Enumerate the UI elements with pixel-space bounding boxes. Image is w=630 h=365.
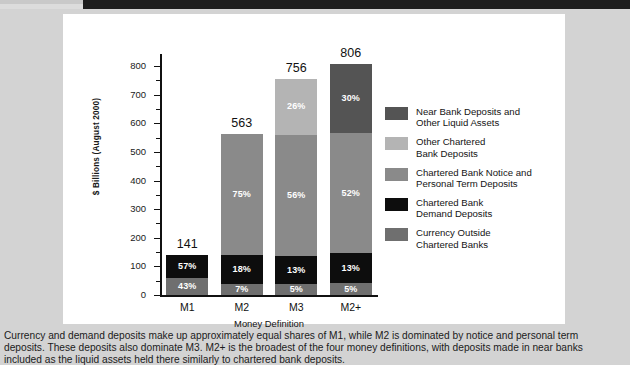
caption-line-2: deposits. These deposits also dominate M… — [4, 342, 628, 354]
bar-segment[interactable]: 52% — [330, 133, 372, 253]
y-axis-tick-label: 500 — [116, 147, 146, 157]
bar-segment[interactable]: 43% — [166, 278, 208, 295]
legend-swatch — [385, 198, 408, 211]
bar-segment-label: 5% — [290, 285, 303, 294]
bar-m2plus[interactable]: 30%52%13%5% — [330, 64, 372, 295]
y-axis-major-tick — [154, 123, 160, 124]
caption-line-1: Currency and demand deposits make up app… — [4, 330, 628, 342]
x-axis-line — [160, 295, 378, 297]
legend-swatch — [385, 107, 408, 120]
bar-segment[interactable]: 7% — [221, 284, 263, 295]
bar-segment-label: 7% — [235, 285, 248, 294]
bar-segment-label: 30% — [342, 94, 360, 103]
chart-panel: $ Billions (August 2000) 010020030040050… — [63, 14, 565, 324]
chart-legend: Near Bank Deposits and Other Liquid Asse… — [385, 106, 565, 258]
bar-m3[interactable]: 26%56%13%5% — [275, 79, 317, 295]
y-axis-major-tick — [154, 266, 160, 267]
x-axis-tick-label: M2+ — [321, 302, 381, 313]
bar-segment-label: 52% — [342, 189, 360, 198]
legend-label: Chartered Bank Demand Deposits — [416, 197, 492, 220]
legend-label: Chartered Bank Notice and Personal Term … — [416, 167, 532, 190]
legend-label: Currency Outside Chartered Banks — [416, 227, 491, 250]
y-axis-minor-tick — [156, 109, 160, 110]
legend-label: Near Bank Deposits and Other Liquid Asse… — [416, 106, 520, 129]
bar-segment-label: 26% — [287, 102, 305, 111]
figure-caption: Currency and demand deposits make up app… — [4, 330, 628, 365]
bar-segment[interactable]: 30% — [330, 64, 372, 133]
y-axis-tick-label: 700 — [116, 90, 146, 100]
legend-item[interactable]: Currency Outside Chartered Banks — [385, 227, 565, 250]
bar-segment-label: 13% — [287, 266, 305, 275]
y-axis-minor-tick — [156, 80, 160, 81]
legend-item[interactable]: Other Chartered Bank Deposits — [385, 136, 565, 159]
y-axis-line — [160, 54, 162, 295]
bar-segment-label: 75% — [233, 190, 251, 199]
bar-segment[interactable]: 75% — [221, 134, 263, 255]
y-axis-minor-tick — [156, 281, 160, 282]
y-axis-tick-label: 800 — [116, 61, 146, 71]
legend-swatch — [385, 168, 408, 181]
y-axis-major-tick — [154, 181, 160, 182]
y-axis-tick-label: 600 — [116, 118, 146, 128]
bar-total-label: 756 — [266, 62, 326, 75]
header-bar — [83, 0, 630, 9]
legend-item[interactable]: Near Bank Deposits and Other Liquid Asse… — [385, 106, 565, 129]
y-axis-major-tick — [154, 209, 160, 210]
bar-total-label: 141 — [157, 238, 217, 251]
bar-segment-label: 56% — [287, 191, 305, 200]
y-axis-minor-tick — [156, 223, 160, 224]
bar-segment[interactable]: 13% — [275, 256, 317, 284]
bar-segment[interactable]: 5% — [275, 284, 317, 295]
y-axis-tick-label: 100 — [116, 261, 146, 271]
y-axis-tick-label: 0 — [116, 290, 146, 300]
legend-swatch — [385, 228, 408, 241]
bar-segment[interactable]: 57% — [166, 255, 208, 278]
bar-segment[interactable]: 5% — [330, 283, 372, 295]
y-axis-minor-tick — [156, 138, 160, 139]
x-axis-tick-label: M3 — [266, 302, 326, 313]
bar-segment-label: 13% — [342, 264, 360, 273]
x-axis-tick-label: M1 — [157, 302, 217, 313]
bar-segment[interactable]: 18% — [221, 255, 263, 284]
bar-segment-label: 5% — [344, 285, 357, 294]
y-axis-major-tick — [154, 152, 160, 153]
y-axis-title: $ Billions (August 2000) — [92, 67, 101, 227]
legend-swatch — [385, 137, 408, 150]
y-axis-major-tick — [154, 95, 160, 96]
y-axis-major-tick — [154, 295, 160, 296]
bar-segment-label: 18% — [233, 265, 251, 274]
y-axis-tick-label: 300 — [116, 204, 146, 214]
bar-segment-label: 57% — [178, 262, 196, 271]
legend-item[interactable]: Chartered Bank Demand Deposits — [385, 197, 565, 220]
header-bar-left-shade — [0, 4, 83, 9]
bar-segment-label: 43% — [178, 282, 196, 291]
legend-items: Near Bank Deposits and Other Liquid Asse… — [385, 106, 565, 250]
y-axis-minor-tick — [156, 252, 160, 253]
legend-label: Other Chartered Bank Deposits — [416, 136, 485, 159]
y-axis-tick-label: 400 — [116, 176, 146, 186]
bar-total-label: 563 — [212, 117, 272, 130]
y-axis-major-tick — [154, 66, 160, 67]
bar-total-label: 806 — [321, 47, 381, 60]
y-axis-minor-tick — [156, 195, 160, 196]
bar-segment[interactable]: 13% — [330, 253, 372, 283]
bar-segment[interactable]: 26% — [275, 79, 317, 135]
x-axis-title: Money Definition — [139, 319, 399, 328]
page-root: $ Billions (August 2000) 010020030040050… — [0, 0, 630, 365]
bar-m1[interactable]: 57%43% — [166, 255, 208, 295]
bar-m2[interactable]: 75%18%7% — [221, 134, 263, 295]
caption-line-3: included as the liquid assets held there… — [4, 354, 628, 365]
bar-segment[interactable]: 56% — [275, 135, 317, 256]
legend-item[interactable]: Chartered Bank Notice and Personal Term … — [385, 167, 565, 190]
y-axis-minor-tick — [156, 166, 160, 167]
y-axis-tick-label: 200 — [116, 233, 146, 243]
x-axis-tick-label: M2 — [212, 302, 272, 313]
